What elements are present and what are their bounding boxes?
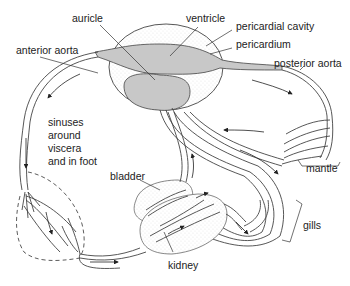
posterior-aorta-vessel <box>282 66 333 164</box>
visceral-sinuses <box>24 196 146 268</box>
auricle <box>124 74 190 111</box>
label-pericardial-cavity: pericardial cavity <box>236 20 315 32</box>
label-pericardium: pericardium <box>236 38 291 50</box>
label-sinuses-line4: and in foot <box>48 155 97 167</box>
label-kidney: kidney <box>168 259 199 271</box>
kidney-heart-vessel <box>168 112 188 182</box>
label-gills: gills <box>303 219 321 231</box>
label-sinuses-line2: around <box>48 129 81 141</box>
gills-bracket <box>282 200 302 242</box>
label-bladder: bladder <box>110 170 146 182</box>
kidney-gill-vessel <box>224 204 246 230</box>
label-ventricle: ventricle <box>186 12 225 24</box>
circulation-diagram: auricle ventricle pericardial cavity per… <box>0 0 350 286</box>
label-sinuses-line3: viscera <box>48 142 81 154</box>
label-posterior-aorta: posterior aorta <box>274 57 342 69</box>
label-sinuses-line1: sinuses <box>48 116 84 128</box>
label-anterior-aorta: anterior aorta <box>16 44 79 56</box>
mantle-return-vessel <box>184 112 284 166</box>
label-auricle: auricle <box>72 12 103 24</box>
label-mantle: mantle <box>306 162 338 174</box>
